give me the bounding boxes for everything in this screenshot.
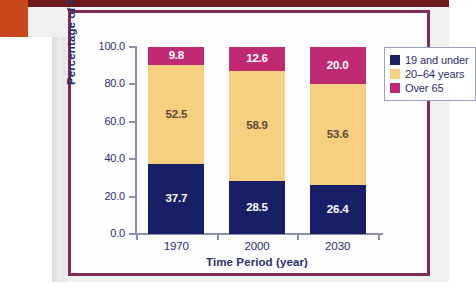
x-axis-tick [217,235,219,240]
x-axis-tick [297,235,299,240]
bar-segment[interactable]: 26.4 [310,185,366,234]
bar-value-label: 12.6 [246,53,268,65]
bar-value-label: 53.6 [327,129,349,141]
legend-color-swatch [390,83,400,93]
y-axis-tick-label: 20.0 [71,190,125,202]
y-axis-tick [129,233,135,235]
bottom-edge-strip [0,282,449,292]
legend-item[interactable]: 20–64 years [390,67,469,81]
bar-segment[interactable]: 12.6 [229,47,285,71]
x-axis-tick [136,235,138,240]
bar-value-label: 28.5 [246,202,268,214]
bar-stack[interactable]: 20.053.626.4 [310,47,366,234]
y-axis-tick-label: 60.0 [71,115,125,127]
y-axis-tick [129,83,135,85]
legend-label: Over 65 [405,82,443,94]
legend-label: 20–64 years [405,68,464,80]
bar-segment[interactable]: 53.6 [310,84,366,184]
x-axis-tick-label: 1970 [141,240,211,252]
chart-panel-inner: 0.020.040.060.080.0100.0 Percentage of P… [71,13,427,273]
bar-stack[interactable]: 12.658.928.5 [229,47,285,234]
corner-color-block [0,0,28,37]
legend-color-swatch [390,55,400,65]
bar-value-label: 58.9 [246,120,268,132]
x-axis-tick-label: 2000 [222,240,292,252]
bar-value-label: 20.0 [327,60,349,72]
chart-legend: 19 and under20–64 yearsOver 65 [384,47,476,101]
bar-value-label: 37.7 [166,193,188,205]
bar-stack[interactable]: 9.852.537.7 [148,47,204,234]
y-axis-tick-label: 0.0 [71,227,125,239]
bar-value-label: 26.4 [327,204,349,216]
bar-value-label: 9.8 [169,50,184,62]
legend-item[interactable]: 19 and under [390,53,469,67]
y-axis-tick [129,46,135,48]
stacked-bar-chart: 0.020.040.060.080.0100.0 Percentage of P… [71,13,427,273]
bar-segment[interactable]: 20.0 [310,47,366,84]
y-axis-title: Percentage of People [65,0,77,85]
y-axis-tick-label: 100.0 [71,40,125,52]
y-axis-tick [129,121,135,123]
legend-item[interactable]: Over 65 [390,81,469,95]
bar-segment[interactable]: 28.5 [229,181,285,234]
chart-panel: 0.020.040.060.080.0100.0 Percentage of P… [68,10,430,276]
bar-segment[interactable]: 52.5 [148,65,204,163]
x-axis-tick-label: 2030 [303,240,373,252]
legend-color-swatch [390,69,400,79]
bar-segment[interactable]: 37.7 [148,164,204,234]
bar-segment[interactable]: 58.9 [229,71,285,181]
y-axis-tick-label: 40.0 [71,152,125,164]
bar-value-label: 52.5 [166,109,188,121]
x-axis-title: Time Period (year) [136,256,378,268]
legend-label: 19 and under [405,54,469,66]
bar-segment[interactable]: 9.8 [148,47,204,65]
y-axis-tick [129,158,135,160]
y-axis-tick-label: 80.0 [71,77,125,89]
plot-area: 9.852.537.712.658.928.520.053.626.4 [136,47,378,234]
x-axis-tick [378,235,380,240]
y-axis-tick [129,196,135,198]
